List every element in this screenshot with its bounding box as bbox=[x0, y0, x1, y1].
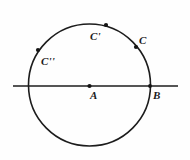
point-label-A: A bbox=[90, 90, 98, 101]
point-dot-A bbox=[87, 84, 91, 88]
point-label-B: B bbox=[153, 90, 161, 101]
geometry-figure: C C' C'' A B bbox=[0, 0, 190, 160]
figure-canvas bbox=[0, 0, 190, 160]
point-dot-C-prime bbox=[104, 23, 108, 27]
point-dot-B bbox=[148, 84, 152, 88]
point-label-C-prime: C' bbox=[90, 31, 101, 42]
point-dot-C bbox=[134, 45, 138, 49]
point-dot-C-double-prime bbox=[36, 48, 40, 52]
point-label-C: C bbox=[139, 35, 147, 46]
point-label-C-double-prime: C'' bbox=[41, 56, 55, 67]
